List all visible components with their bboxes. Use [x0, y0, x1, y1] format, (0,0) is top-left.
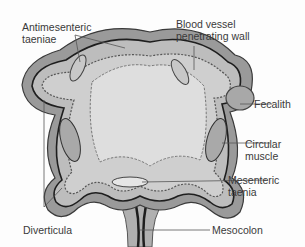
colon-diverticula-diagram: Antimesenteric taeniae Blood vessel pene… [0, 0, 305, 247]
fecalith [226, 86, 254, 110]
label-mesocolon: Mesocolon [212, 224, 263, 236]
label-blood-vessel: Blood vessel penetrating wall [176, 18, 250, 42]
label-circular-muscle: Circular muscle [245, 138, 281, 162]
label-diverticula: Diverticula [23, 224, 72, 236]
label-fecalith: Fecalith [254, 98, 291, 110]
label-mesenteric-taenia: Mesenteric taenia [228, 174, 279, 198]
label-antimesenteric-taeniae: Antimesenteric taeniae [22, 21, 91, 45]
